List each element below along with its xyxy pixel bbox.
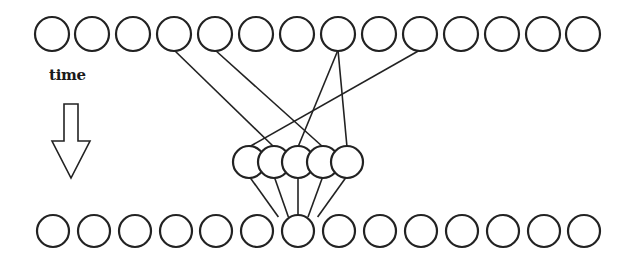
middle-node-4 xyxy=(331,146,363,178)
edge-top-9-to-middle-0 xyxy=(249,50,420,147)
bottom-node-10 xyxy=(446,215,478,247)
bottom-node-9 xyxy=(405,215,437,247)
top-row-nodes xyxy=(35,17,600,51)
bottom-node-12 xyxy=(528,215,560,247)
top-node-12 xyxy=(526,17,560,51)
bottom-node-2 xyxy=(119,215,151,247)
bottom-node-3 xyxy=(160,215,192,247)
time-label: time xyxy=(49,66,86,84)
bottom-node-5 xyxy=(241,215,273,247)
top-node-7 xyxy=(321,17,355,51)
edge-middle-3-to-bottom-6 xyxy=(308,176,323,217)
top-node-8 xyxy=(362,17,396,51)
top-node-6 xyxy=(280,17,314,51)
bottom-row-nodes xyxy=(37,215,600,247)
network-diagram xyxy=(0,0,636,267)
top-node-1 xyxy=(75,17,109,51)
bottom-node-0 xyxy=(37,215,69,247)
edge-top-7-to-middle-2 xyxy=(298,50,338,147)
edge-top-3-to-middle-1 xyxy=(174,50,274,147)
bottom-node-8 xyxy=(364,215,396,247)
bottom-node-6 xyxy=(282,215,314,247)
edge-middle-1-to-bottom-6 xyxy=(274,176,288,217)
edge-top-4-to-middle-3 xyxy=(215,50,323,147)
edge-middle-0-to-bottom-6 xyxy=(249,176,278,217)
top-node-10 xyxy=(444,17,478,51)
top-node-5 xyxy=(239,17,273,51)
top-node-13 xyxy=(566,17,600,51)
bottom-node-13 xyxy=(568,215,600,247)
top-node-4 xyxy=(198,17,232,51)
middle-cluster-nodes xyxy=(233,146,363,178)
down-arrow-icon xyxy=(52,104,90,178)
top-node-0 xyxy=(35,17,69,51)
edge-middle-4-to-bottom-6 xyxy=(318,176,347,217)
edge-top-7-to-middle-4 xyxy=(338,50,347,147)
bottom-node-11 xyxy=(487,215,519,247)
top-node-3 xyxy=(157,17,191,51)
top-node-9 xyxy=(403,17,437,51)
bottom-node-1 xyxy=(78,215,110,247)
bottom-node-7 xyxy=(323,215,355,247)
connection-lines xyxy=(174,50,420,217)
bottom-node-4 xyxy=(200,215,232,247)
top-node-2 xyxy=(116,17,150,51)
top-node-11 xyxy=(485,17,519,51)
